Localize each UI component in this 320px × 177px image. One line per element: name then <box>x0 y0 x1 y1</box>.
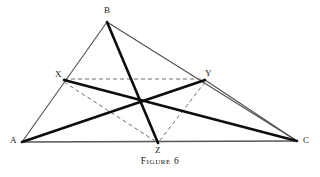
segment-BZ-cevian <box>107 22 158 143</box>
vertex-label-Z: Z <box>155 146 161 155</box>
vertex-label-B: B <box>104 6 110 15</box>
segment-AC <box>22 141 297 142</box>
figure-caption: Figure 6 <box>0 156 320 167</box>
segment-YC <box>205 80 297 141</box>
vertex-label-X: X <box>55 70 62 79</box>
vertex-label-Y: Y <box>205 69 212 78</box>
vertex-label-A: A <box>10 136 17 145</box>
triangle-outline-group <box>22 22 297 142</box>
cevian-group <box>22 22 297 143</box>
figure-container: A B C X Y Z Figure 6 <box>0 0 320 177</box>
vertex-label-C: C <box>303 136 309 145</box>
segment-YZ-dashed <box>158 82 205 143</box>
